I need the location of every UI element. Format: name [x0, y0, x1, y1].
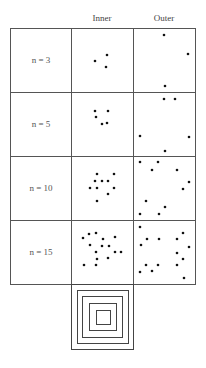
row-label-n15: n = 15 [29, 247, 53, 257]
inner-dot [114, 251, 117, 254]
outer-dot [139, 135, 142, 138]
outer-dot [188, 181, 191, 184]
outer-dot [151, 270, 154, 273]
inner-dot [107, 193, 110, 196]
outer-dot [157, 161, 160, 164]
column-header-inner: Inner [93, 13, 112, 23]
outer-dot [151, 169, 154, 172]
row-label-n10: n = 10 [29, 183, 53, 193]
outer-dot [163, 34, 166, 37]
outer-dot [139, 271, 142, 274]
inner-outer-diagram: Inner Outer n = 3 n = 5 n = 10 n = 15 [0, 0, 206, 368]
inner-dot [108, 245, 111, 248]
outer-dot [158, 213, 161, 216]
inner-dot [107, 180, 110, 183]
inner-dot [113, 187, 116, 190]
outer-dot [176, 264, 179, 267]
inner-dot [94, 60, 97, 63]
inner-dot [95, 251, 98, 254]
inner-dot [94, 180, 97, 183]
inner-dot [107, 110, 110, 113]
inner-dot [95, 264, 98, 267]
outer-dot [187, 53, 190, 56]
outer-dot [164, 206, 167, 209]
row-label-n5: n = 5 [32, 119, 51, 129]
inner-dot [88, 233, 91, 236]
outer-dot [163, 98, 166, 101]
outer-dot [158, 238, 161, 241]
outer-dot [157, 264, 160, 267]
inner-dot [83, 264, 86, 267]
nested-square [90, 304, 117, 331]
outer-dot [182, 258, 185, 261]
outer-dot [145, 264, 148, 267]
inner-dot [120, 251, 123, 254]
outer-dot [188, 136, 191, 139]
outer-dot [176, 238, 179, 241]
inner-dot [101, 245, 104, 248]
inner-dot [96, 200, 99, 203]
outer-dot [176, 252, 179, 255]
nested-squares-figure [72, 285, 134, 350]
inner-dot [96, 173, 99, 176]
inner-dot [89, 244, 92, 247]
inner-dot [82, 237, 85, 240]
outer-dot [182, 232, 185, 235]
inner-dot [113, 173, 116, 176]
inner-dot [102, 238, 105, 241]
outer-dot [188, 246, 191, 249]
outer-dot [174, 98, 177, 101]
inner-dot [107, 257, 110, 260]
outer-dot [139, 161, 142, 164]
nested-square [78, 291, 129, 344]
outer-dot [140, 244, 143, 247]
outer-dot [145, 200, 148, 203]
outer-dot [146, 238, 149, 241]
outer-dot [164, 150, 167, 153]
inner-dot [106, 122, 109, 125]
outer-dot [139, 226, 142, 229]
column-header-outer: Outer [154, 13, 175, 23]
inner-dot [89, 187, 92, 190]
outer-dot [182, 188, 185, 191]
inner-dot [96, 258, 99, 261]
nested-square [72, 285, 134, 350]
inner-dot [96, 187, 99, 190]
inner-dot [94, 110, 97, 113]
row-label-n3: n = 3 [32, 55, 51, 65]
inner-dot [106, 54, 109, 57]
inner-dot [105, 66, 108, 69]
outer-dot [176, 169, 179, 172]
outer-dot [139, 213, 142, 216]
inner-dot [95, 232, 98, 235]
outer-dot [183, 277, 186, 280]
inner-dot [101, 123, 104, 126]
nested-square [97, 311, 111, 325]
inner-dot [95, 116, 98, 119]
inner-dot [101, 180, 104, 183]
outer-dot [164, 85, 167, 88]
inner-dot [114, 236, 117, 239]
